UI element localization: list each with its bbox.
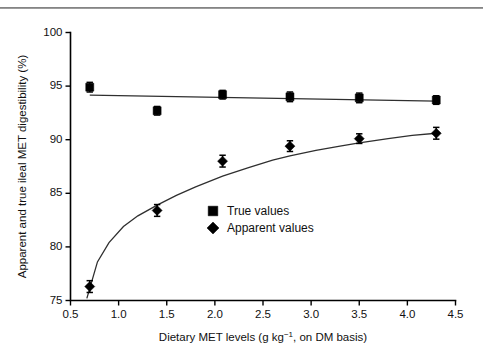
y-tick-label: 85 bbox=[50, 186, 63, 198]
data-point-square bbox=[153, 107, 161, 115]
x-tick-label: 2.5 bbox=[255, 308, 271, 320]
x-axis-title: Dietary MET levels (g kg−1, on DM basis) bbox=[159, 330, 367, 344]
data-point-square bbox=[432, 96, 440, 104]
chart-figure: 75808590951000.51.01.52.02.53.03.54.04.5… bbox=[0, 0, 483, 356]
x-tick-label: 2.0 bbox=[207, 308, 223, 320]
x-tick-label: 4.0 bbox=[399, 308, 415, 320]
legend-label-0: True values bbox=[227, 204, 289, 218]
chart-canvas: 75808590951000.51.01.52.02.53.03.54.04.5… bbox=[0, 0, 483, 356]
series-fit-0 bbox=[90, 95, 437, 101]
y-tick-label: 90 bbox=[50, 133, 63, 145]
legend-marker-square bbox=[208, 206, 218, 216]
legend-marker-diamond bbox=[207, 222, 219, 234]
data-point-diamond bbox=[218, 156, 228, 166]
data-point-diamond bbox=[431, 128, 441, 138]
axis-spine bbox=[71, 33, 456, 301]
legend-label-1: Apparent values bbox=[227, 221, 314, 235]
legend: True valuesApparent values bbox=[207, 204, 314, 235]
y-tick-label: 75 bbox=[50, 294, 63, 306]
data-point-diamond bbox=[285, 141, 295, 151]
x-tick-label: 3.5 bbox=[351, 308, 367, 320]
y-axis: 7580859095100 bbox=[43, 26, 70, 306]
data-point-square bbox=[286, 93, 294, 101]
x-axis-title-pre: Dietary MET levels (g kg bbox=[159, 331, 284, 343]
x-axis-title-post: , on DM basis) bbox=[293, 331, 367, 343]
x-tick-label: 0.5 bbox=[63, 308, 79, 320]
x-tick-label: 3.0 bbox=[303, 308, 319, 320]
x-tick-label: 4.5 bbox=[448, 308, 464, 320]
y-tick-label: 95 bbox=[50, 79, 63, 91]
data-point-square bbox=[86, 83, 94, 91]
y-axis-title: Apparent and true ileal MET digestibilit… bbox=[16, 55, 28, 279]
data-point-diamond bbox=[85, 282, 95, 292]
x-axis: 0.51.01.52.02.53.03.54.04.5 bbox=[63, 301, 464, 320]
y-tick-label: 100 bbox=[43, 26, 62, 38]
data-point-square bbox=[219, 91, 227, 99]
x-tick-label: 1.0 bbox=[111, 308, 127, 320]
x-tick-label: 1.5 bbox=[159, 308, 175, 320]
fit-line-square bbox=[90, 95, 437, 101]
data-point-square bbox=[355, 94, 363, 102]
axes bbox=[71, 33, 456, 301]
y-tick-label: 80 bbox=[50, 240, 63, 252]
